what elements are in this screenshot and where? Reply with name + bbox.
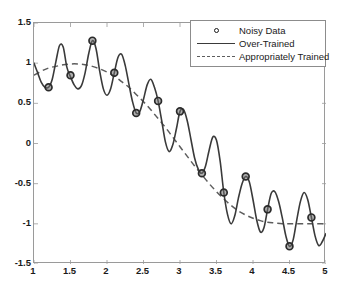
chart-figure: 1.510.50-0.5-1-1.5 11.522.533.544.55 Noi… [0,0,338,294]
y-tick-label: 0.5 [2,97,31,106]
data-point-marker [67,72,74,79]
data-point-marker [89,37,96,44]
x-tick-label: 1.5 [63,266,76,276]
circle-marker-icon [195,24,237,36]
x-tick-label: 4 [249,266,254,276]
y-tick-label: -0.5 [2,178,31,187]
legend-item-over-trained: Over-Trained [195,37,321,49]
x-tick-label: 2.5 [136,266,149,276]
legend-item-appropriately-trained: Appropriately Trained [195,50,321,62]
y-tick-label: 1.5 [2,17,31,26]
y-axis-tick-labels: 1.510.50-0.5-1-1.5 [0,0,31,294]
legend-item-noisy-data: Noisy Data [195,24,321,36]
data-point-marker [155,98,162,105]
x-axis-tick-labels: 11.522.533.544.55 [0,266,338,282]
dashed-line-icon [195,50,237,62]
data-point-marker [111,69,118,76]
data-point-marker [199,170,206,177]
data-point-marker [286,243,293,250]
solid-line-icon [195,37,237,49]
y-tick-label: -1 [2,218,31,227]
data-point-marker [264,206,271,213]
data-point-marker [45,84,52,91]
chart-legend: Noisy Data Over-Trained Appropriately Tr… [190,20,326,67]
x-tick-label: 4.5 [282,266,295,276]
data-point-marker [220,189,227,196]
legend-label-appropriately-trained: Appropriately Trained [239,51,329,62]
legend-label-over-trained: Over-Trained [239,38,295,49]
data-point-marker [133,110,140,117]
data-point-marker [242,173,249,180]
y-tick-label: 1 [2,57,31,66]
over-trained-curve [34,41,326,247]
x-tick-label: 1 [30,266,35,276]
legend-label-noisy-data: Noisy Data [239,25,285,36]
appropriately-trained-curve [34,64,326,224]
data-point-marker [177,108,184,115]
x-tick-label: 3 [176,266,181,276]
y-tick-label: 0 [2,138,31,147]
x-tick-label: 5 [322,266,327,276]
x-tick-label: 2 [103,266,108,276]
x-tick-label: 3.5 [209,266,222,276]
data-point-marker [308,214,315,221]
